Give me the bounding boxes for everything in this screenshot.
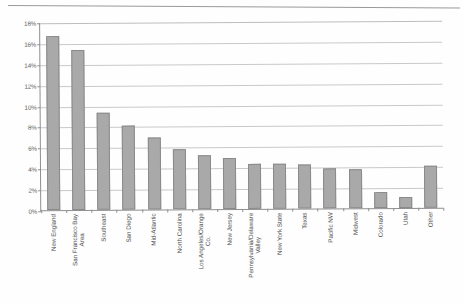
bar-slot [166, 22, 192, 209]
x-label-slot: Colorado [368, 212, 394, 300]
x-axis-label: Pennsylvania/DelawareValley [247, 213, 262, 278]
x-axis-label-line: Pennsylvania/Delaware [247, 213, 254, 278]
x-axis-label: Colorado [377, 212, 385, 237]
x-axis-label: Pacific NW [326, 212, 334, 242]
x-label-slot: North Carolina [166, 213, 192, 301]
bar [349, 170, 362, 209]
x-axis-label-line: New England [49, 214, 56, 251]
bar-slot [216, 22, 242, 209]
x-axis-labels: New EnglandSan Francisco BayAreaSoutheas… [40, 212, 444, 302]
bar [71, 50, 85, 210]
x-label-slot: Mid-Atlantic [141, 213, 167, 301]
x-tick-mark [318, 208, 319, 211]
x-label-slot: New England [40, 214, 66, 302]
bar-series [40, 21, 443, 210]
bar [46, 36, 60, 210]
y-tick-label: 4% [28, 166, 37, 173]
x-tick-mark [343, 208, 344, 211]
x-axis-label: Other [427, 212, 435, 228]
x-tick-mark [192, 209, 193, 212]
x-axis-label: New Jersey [225, 213, 233, 245]
x-tick-mark [92, 210, 93, 213]
bar-slot [316, 21, 342, 208]
x-tick-mark [142, 210, 143, 213]
y-tick-label: 16% [24, 41, 36, 48]
y-tick-label: 14% [24, 61, 36, 68]
bar [424, 166, 437, 208]
x-axis-label-line: Texas [301, 213, 308, 229]
x-label-slot: Midwest [343, 212, 369, 300]
bar [298, 165, 311, 209]
x-axis-label: Los Angeles/OrangeCo. [197, 213, 212, 269]
x-axis-label-line: San Francisco Bay [71, 214, 78, 266]
x-axis-label: San Diego [125, 214, 133, 243]
x-label-slot: San Diego [116, 214, 142, 302]
bar-slot [115, 23, 141, 210]
x-axis-label: Southeast [100, 214, 108, 242]
x-axis-label: New York State [276, 213, 284, 255]
bar-slot [141, 22, 167, 209]
bar-slot [392, 21, 418, 208]
bar [273, 164, 286, 209]
x-axis-label-line: Colorado [377, 212, 384, 237]
x-label-slot: Pacific NW [317, 212, 343, 300]
x-axis-label-line: Other [427, 212, 434, 228]
x-label-slot: New Jersey [217, 213, 243, 301]
x-axis-label-line: North Carolina [175, 213, 182, 253]
x-label-slot: New York State [267, 213, 293, 301]
x-tick-mark [242, 209, 243, 212]
x-tick-mark [117, 210, 118, 213]
x-tick-mark [41, 210, 42, 213]
x-axis-label: New England [49, 214, 57, 251]
bar-slot [291, 21, 317, 208]
x-tick-mark [418, 208, 419, 211]
bar-slot [241, 22, 267, 209]
x-tick-mark [368, 208, 369, 211]
x-tick-mark [167, 209, 168, 212]
x-axis-label-line: New York State [276, 213, 283, 255]
bar [223, 158, 236, 209]
x-tick-mark [217, 209, 218, 212]
x-label-slot: Texas [292, 212, 318, 300]
x-tick-mark [393, 208, 394, 211]
x-axis-label: Mid-Atlantic [150, 213, 158, 245]
x-axis-label: North Carolina [175, 213, 183, 253]
x-axis-label: San Francisco BayArea [71, 214, 86, 266]
y-tick-label: 6% [28, 145, 37, 152]
bar [198, 155, 211, 209]
plot-area: 18%16%14%12%10%8%6%4%2%0% [39, 21, 443, 211]
x-axis-label-line: San Diego [125, 214, 132, 243]
y-tick-label: 12% [24, 82, 36, 89]
x-label-slot: Other [418, 212, 444, 300]
bar [374, 192, 387, 208]
x-axis-label: Midwest [351, 212, 359, 235]
x-axis-label: Utah [402, 212, 409, 225]
bar [147, 137, 160, 209]
bar-slot [40, 23, 66, 210]
x-axis-label-line: Midwest [351, 212, 358, 235]
x-axis-label-line: Mid-Atlantic [150, 213, 157, 245]
bar [399, 196, 412, 208]
x-tick-mark [443, 208, 444, 211]
x-axis-label: Texas [301, 213, 309, 229]
x-axis-label-line: Area [78, 214, 86, 266]
y-tick-label: 18% [24, 20, 36, 27]
bar [173, 150, 186, 210]
bar-chart: 18%16%14%12%10%8%6%4%2%0% New EnglandSan… [0, 0, 463, 305]
y-tick-label: 2% [28, 187, 37, 194]
bar [248, 164, 261, 209]
x-axis-label-line: New Jersey [225, 213, 232, 245]
x-label-slot: Southeast [91, 214, 117, 302]
bar [122, 126, 136, 210]
bar-slot [191, 22, 217, 209]
x-tick-mark [66, 210, 67, 213]
bar-slot [65, 23, 91, 210]
y-tick-label: 10% [25, 103, 37, 110]
bar-slot [342, 21, 368, 208]
x-tick-mark [293, 209, 294, 212]
x-axis-label-line: Valley [254, 213, 262, 278]
bar-slot [367, 21, 393, 208]
y-tick-label: 0% [28, 208, 37, 215]
x-axis-label-line: Southeast [100, 214, 107, 242]
bar-slot [90, 23, 116, 210]
